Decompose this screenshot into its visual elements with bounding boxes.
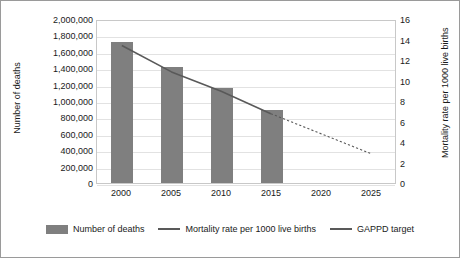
y-axis-right-tick-label: 8 — [400, 97, 405, 107]
gappd-target-line — [271, 114, 370, 154]
chart-figure: Number of deaths Mortality rate per 1000… — [0, 0, 460, 258]
y-axis-right-ticks: 1614121086420 — [400, 20, 422, 184]
y-axis-left-tick-label: 1,600,000 — [53, 48, 93, 58]
x-axis-tick-label: 2005 — [146, 187, 196, 199]
y-axis-left-tick-label: 600,000 — [60, 130, 93, 140]
legend-item-label: Mortality rate per 1000 live births — [185, 224, 316, 234]
y-axis-right-tick-label: 14 — [400, 36, 410, 46]
y-axis-left-tick-label: 1,200,000 — [53, 81, 93, 91]
x-axis-ticks: 200020052010201520202025 — [96, 187, 396, 201]
y-axis-right-tick-label: 10 — [400, 77, 410, 87]
y-axis-left-tick-label: 400,000 — [60, 146, 93, 156]
legend-item[interactable]: Number of deaths — [46, 224, 145, 234]
y-axis-right-title: Mortality rate per 1000 live births — [440, 38, 450, 158]
legend-line-swatch-icon — [158, 228, 180, 230]
mortality-rate-line — [122, 45, 271, 113]
y-axis-right-tick-label: 6 — [400, 118, 405, 128]
legend-bar-swatch-icon — [46, 225, 68, 234]
legend-item[interactable]: GAPPD target — [330, 224, 414, 234]
y-axis-left-tick-label: 0 — [88, 179, 93, 189]
line-series-svg — [97, 21, 395, 184]
legend-line-swatch-icon — [330, 228, 352, 230]
x-axis-tick-label: 2020 — [296, 187, 346, 199]
y-axis-left-ticks: 2,000,0001,800,0001,600,0001,400,0001,20… — [21, 20, 93, 184]
y-axis-right-tick-label: 16 — [400, 15, 410, 25]
x-axis-tick-label: 2015 — [246, 187, 296, 199]
y-axis-left-tick-label: 200,000 — [60, 163, 93, 173]
legend-item-label: GAPPD target — [357, 224, 414, 234]
y-axis-left-tick-label: 1,800,000 — [53, 31, 93, 41]
x-axis-tick-label: 2025 — [346, 187, 396, 199]
legend-item-label: Number of deaths — [73, 224, 145, 234]
legend-item[interactable]: Mortality rate per 1000 live births — [158, 224, 316, 234]
gridline — [97, 185, 395, 186]
y-axis-left-tick-label: 1,400,000 — [53, 64, 93, 74]
y-axis-right-tick-label: 4 — [400, 138, 405, 148]
y-axis-left-tick-label: 2,000,000 — [53, 15, 93, 25]
y-axis-right-tick-label: 2 — [400, 159, 405, 169]
x-axis-tick-label: 2010 — [196, 187, 246, 199]
y-axis-left-tick-label: 800,000 — [60, 113, 93, 123]
plot-area — [96, 20, 396, 184]
y-axis-left-tick-label: 1,000,000 — [53, 97, 93, 107]
chart-legend: Number of deathsMortality rate per 1000 … — [1, 220, 459, 238]
y-axis-right-tick-label: 0 — [400, 179, 405, 189]
x-axis-tick-label: 2000 — [96, 187, 146, 199]
y-axis-right-tick-label: 12 — [400, 56, 410, 66]
